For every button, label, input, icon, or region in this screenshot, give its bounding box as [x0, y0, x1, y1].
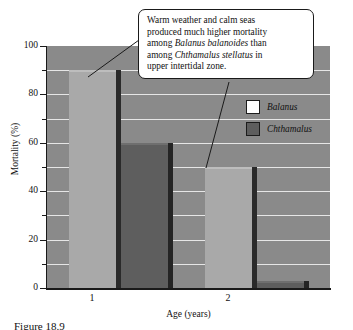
y-tick-minor-50 [42, 167, 46, 168]
chart-legend: Balanus Chthamalus [246, 99, 312, 143]
species-balanus-balanoides: Balanus balanoides [175, 38, 249, 48]
callout-line-3-pre: among [147, 38, 175, 48]
bar-top-edge [257, 281, 304, 283]
callout-line-4-pre: among [147, 50, 175, 60]
bar-balanus-age1[interactable] [69, 70, 116, 288]
figure-container: 100 80 60 40 20 0 Mortality (%) 1 2 Age … [0, 0, 353, 330]
bar-top-edge [121, 143, 168, 145]
bar-face [205, 167, 252, 288]
x-label-2: 2 [208, 292, 248, 303]
y-axis-title: Mortality (%) [10, 89, 20, 209]
legend-swatch-balanus [246, 100, 260, 114]
callout-annotation: Warm weather and calm seas produced much… [138, 9, 314, 79]
y-tick-0 [40, 288, 46, 289]
callout-line-3: among Balanus balanoides than [147, 38, 306, 50]
legend-item-balanus[interactable]: Balanus [246, 99, 312, 114]
y-label-100: 100 [10, 41, 38, 50]
x-label-1: 1 [72, 292, 112, 303]
bar-top-edge [205, 167, 252, 169]
bar-balanus-age2[interactable] [205, 167, 252, 288]
y-axis-line [46, 46, 47, 289]
figure-caption: Figure 18.9 [14, 320, 65, 330]
bar-side-edge [252, 167, 257, 288]
x-axis-title: Age (years) [47, 309, 330, 319]
y-tick-60 [40, 143, 46, 144]
callout-line-4: among Chthamalus stellatus in [147, 50, 306, 62]
x-axis-line [46, 288, 331, 290]
y-label-20: 20 [10, 235, 38, 244]
callout-line-4-post: in [253, 50, 263, 60]
callout-line-3-post: than [248, 38, 266, 48]
legend-label-balanus: Balanus [267, 102, 297, 112]
y-tick-minor-10 [42, 264, 46, 265]
y-tick-minor-90 [42, 70, 46, 71]
plot-area [47, 46, 330, 288]
bar-top-edge [69, 70, 116, 72]
legend-swatch-chthamalus [246, 122, 260, 136]
bar-side-edge [304, 281, 309, 288]
legend-item-chthamalus[interactable]: Chthamalus [246, 121, 312, 136]
y-tick-minor-30 [42, 215, 46, 216]
bar-chthamalus-age1[interactable] [121, 143, 168, 288]
callout-line-1: Warm weather and calm seas [147, 15, 306, 27]
bar-side-edge [168, 143, 173, 288]
bar-face [69, 70, 116, 288]
y-tick-80 [40, 94, 46, 95]
species-chthamalus-stellatus: Chthamalus stellatus [175, 50, 253, 60]
legend-label-chthamalus: Chthamalus [267, 124, 312, 134]
bar-face [121, 143, 168, 288]
y-tick-minor-70 [42, 119, 46, 120]
y-tick-40 [40, 191, 46, 192]
bar-chthamalus-age2[interactable] [257, 281, 304, 288]
callout-line-2: produced much higher mortality [147, 27, 306, 39]
y-label-0: 0 [10, 283, 38, 292]
y-tick-20 [40, 240, 46, 241]
y-tick-100 [40, 46, 46, 47]
callout-line-5: upper intertidal zone. [147, 61, 306, 73]
